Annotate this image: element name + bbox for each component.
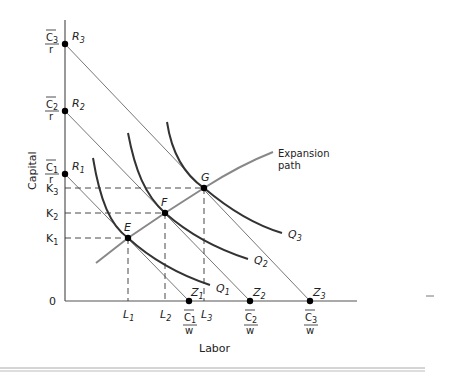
isoquant-q3 (167, 122, 282, 233)
expansion-path-label-2: path (278, 160, 301, 171)
label-k2: K2 (46, 207, 58, 222)
label-z3: Z3 (312, 286, 326, 301)
svg-text:w: w (246, 325, 254, 336)
svg-text:C3: C3 (305, 312, 317, 325)
label-r2: R2 (72, 97, 85, 112)
label-z1: Z1 (190, 286, 204, 301)
point-f (162, 210, 168, 216)
y-axis-title: Capital (26, 151, 39, 190)
svg-text:w: w (185, 325, 193, 336)
label-l1: L1 (123, 308, 134, 323)
fraction-c3-r: C3 r (45, 30, 59, 55)
label-q3: Q3 (288, 228, 302, 243)
origin-label: 0 (49, 295, 56, 308)
label-r3: R3 (72, 30, 85, 45)
fraction-c1-w: C1 w (183, 310, 197, 336)
point-r2 (62, 108, 68, 114)
label-z2: Z2 (252, 286, 266, 301)
fraction-c2-r: C2 r (45, 97, 59, 122)
svg-text:w: w (306, 325, 314, 336)
label-k3: K3 (46, 182, 58, 197)
x-axis-title: Labor (199, 342, 231, 355)
label-g: G (201, 171, 210, 184)
label-e: E (124, 221, 131, 234)
point-r1 (62, 171, 68, 177)
cost-minimization-diagram: R3 R2 R1 C3 r C2 r C1 r K3 K2 K1 0 Capit… (0, 0, 454, 375)
label-k1: K1 (46, 232, 58, 247)
svg-text:r: r (49, 111, 54, 122)
label-l3: L3 (201, 308, 212, 323)
label-l2: L2 (160, 308, 171, 323)
label-r1: R1 (72, 160, 85, 175)
fraction-c2-w: C2 w (244, 310, 258, 336)
fraction-c3-w: C3 w (304, 310, 318, 336)
expansion-path-label-1: Expansion (278, 148, 330, 159)
label-q2: Q2 (254, 254, 268, 269)
svg-text:C1: C1 (184, 312, 196, 325)
label-q1: Q1 (216, 282, 230, 297)
point-g (201, 185, 207, 191)
svg-text:r: r (49, 44, 54, 55)
point-r3 (62, 41, 68, 47)
svg-text:C2: C2 (245, 312, 257, 325)
label-f: F (161, 196, 168, 209)
point-e (125, 235, 131, 241)
isoquant-q2 (128, 133, 248, 259)
